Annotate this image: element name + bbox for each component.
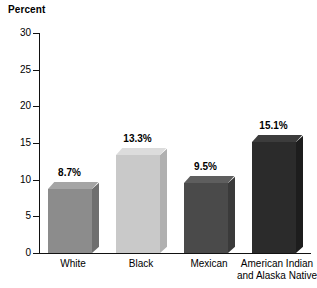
- bar-value-label: 15.1%: [259, 120, 287, 131]
- x-axis-category-line: American Indian: [221, 258, 317, 270]
- x-axis-category-label: American Indianand Alaska Native: [221, 258, 317, 282]
- bar-side-face: [296, 136, 303, 253]
- y-tick-label: 30: [5, 28, 31, 38]
- x-axis-category-label: Black: [129, 258, 153, 270]
- x-axis-category-line: White: [60, 258, 86, 270]
- y-tick-label: 20: [5, 101, 31, 111]
- bar-side-face: [160, 149, 167, 253]
- bar-body: [252, 142, 296, 253]
- bar-body: [116, 155, 160, 253]
- chart-canvas: Percent 051015202530 8.7%White13.3%Black…: [0, 0, 317, 288]
- y-tick-label: 5: [5, 211, 31, 221]
- y-tick-label: 0: [5, 248, 31, 258]
- bar-value-label: 9.5%: [194, 161, 217, 172]
- bar-top-face: [48, 182, 98, 189]
- bar-value-label: 8.7%: [58, 167, 81, 178]
- bar-column[interactable]: 13.3%: [116, 155, 160, 253]
- bar-top-face: [116, 148, 166, 155]
- y-tick-label: 10: [5, 175, 31, 185]
- bar-front-face: [48, 189, 92, 253]
- x-axis-category-line: Black: [129, 258, 153, 270]
- bar-body: [48, 189, 92, 253]
- bar-top-face: [184, 176, 234, 183]
- x-axis-category-line: and Alaska Native: [221, 270, 317, 282]
- bar-side-face: [228, 177, 235, 253]
- bar-side-face: [92, 183, 99, 253]
- bar-front-face: [116, 155, 160, 253]
- bar-value-label: 13.3%: [123, 133, 151, 144]
- bar-front-face: [184, 183, 228, 253]
- bar-column[interactable]: 8.7%: [48, 189, 92, 253]
- y-tick-label: 15: [5, 138, 31, 148]
- bar-body: [184, 183, 228, 253]
- x-axis-category-label: White: [60, 258, 86, 270]
- bar-front-face: [252, 142, 296, 253]
- bar-top-face: [252, 135, 302, 142]
- plot-area: 8.7%White13.3%Black9.5%Mexican15.1%Ameri…: [39, 0, 311, 288]
- bar-column[interactable]: 9.5%: [184, 183, 228, 253]
- bar-column[interactable]: 15.1%: [252, 142, 296, 253]
- y-tick-label: 25: [5, 65, 31, 75]
